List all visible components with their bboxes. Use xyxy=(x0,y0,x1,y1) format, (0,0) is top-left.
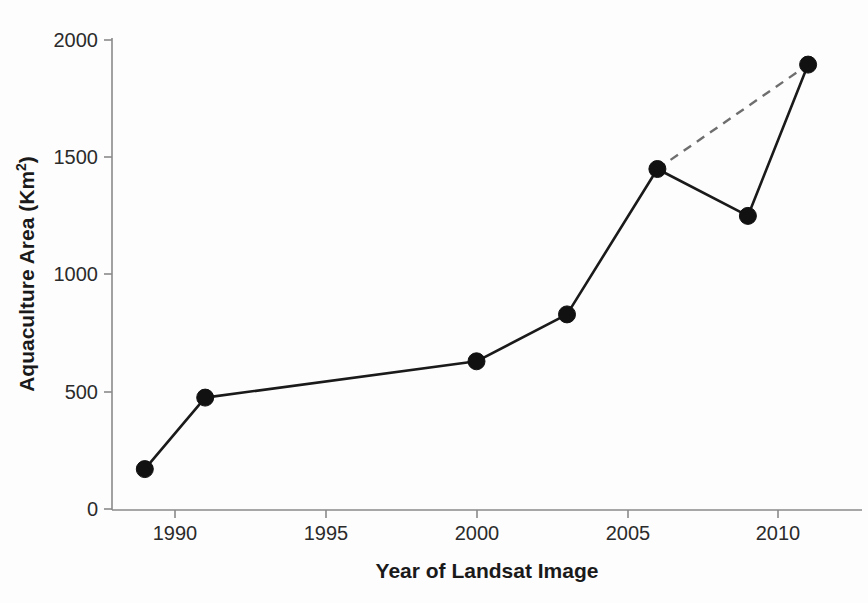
data-point-marker xyxy=(649,161,666,178)
y-axis-title-superscript: 2 xyxy=(13,163,29,171)
series-line-observed xyxy=(145,65,808,470)
x-axis-group: 1990 1995 2000 2005 2010 xyxy=(112,510,862,544)
y-tick-label-0: 0 xyxy=(87,498,98,520)
x-tick-label-1990: 1990 xyxy=(153,522,198,544)
data-point-markers xyxy=(136,56,816,478)
y-tick-label-1500: 1500 xyxy=(54,146,99,168)
data-point-marker xyxy=(136,461,153,478)
x-tick-label-1995: 1995 xyxy=(304,522,349,544)
data-point-marker xyxy=(800,56,817,73)
y-tick-label-1000: 1000 xyxy=(54,263,99,285)
data-point-marker xyxy=(559,306,576,323)
x-tick-label-2005: 2005 xyxy=(606,522,651,544)
chart-canvas: 2000 1500 1000 500 0 1990 1995 2000 2005… xyxy=(0,0,868,603)
data-point-marker xyxy=(197,389,214,406)
y-tick-label-500: 500 xyxy=(65,381,98,403)
data-point-marker xyxy=(468,353,485,370)
x-tick-label-2000: 2000 xyxy=(455,522,500,544)
y-axis-group: 2000 1500 1000 500 0 xyxy=(54,29,113,520)
data-series-group xyxy=(136,56,816,478)
y-tick-label-2000: 2000 xyxy=(54,29,99,51)
series-line-trend-dashed xyxy=(657,65,808,169)
y-axis-title-close: ) xyxy=(15,156,38,163)
y-axis-title: Aquaculture Area (Km2) xyxy=(13,156,38,392)
x-axis-ticks xyxy=(175,510,778,518)
y-axis-title-base: Aquaculture Area (Km xyxy=(15,171,38,392)
x-axis-title: Year of Landsat Image xyxy=(376,559,599,582)
y-axis-ticks xyxy=(104,40,112,509)
x-tick-label-2010: 2010 xyxy=(756,522,801,544)
aquaculture-area-line-chart: 2000 1500 1000 500 0 1990 1995 2000 2005… xyxy=(0,0,868,603)
data-point-marker xyxy=(739,207,756,224)
